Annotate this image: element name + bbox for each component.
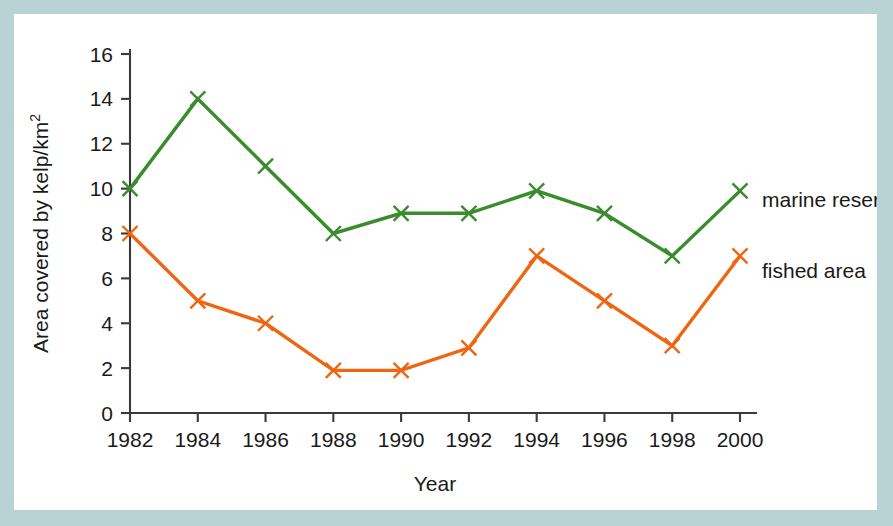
x-tick-label: 1988 (310, 428, 357, 451)
data-point-marker (258, 159, 273, 174)
series-label-fished-area: fished area (762, 259, 866, 282)
data-point-marker (665, 248, 680, 263)
x-axis-tick-labels: 1982198419861988199019921994199619982000 (107, 428, 764, 451)
x-tick-label: 1990 (378, 428, 425, 451)
y-axis-title: Area covered by kelp/km2 (27, 114, 52, 353)
x-tick-label: 1994 (513, 428, 560, 451)
series-label-marine-reserve: marine reserve (762, 188, 877, 211)
y-axis-tick-labels: 0246810121416 (90, 43, 114, 425)
y-tick-label: 6 (101, 267, 113, 290)
y-tick-label: 2 (101, 357, 113, 380)
axis-tick-marks (121, 54, 740, 422)
y-axis-title-text: Area covered by kelp/km (29, 122, 52, 353)
x-tick-label: 1984 (174, 428, 221, 451)
series-layer (123, 91, 748, 377)
data-point-marker (665, 338, 680, 353)
series-line-marine-reserve (130, 99, 740, 256)
series-line-fished-area (130, 234, 740, 371)
data-point-marker (597, 293, 612, 308)
y-tick-label: 0 (101, 402, 113, 425)
y-tick-label: 14 (90, 87, 114, 110)
figure-frame: 0246810121416 19821984198619881990199219… (0, 0, 893, 526)
x-tick-label: 2000 (717, 428, 764, 451)
line-chart: 0246810121416 19821984198619881990199219… (14, 14, 877, 510)
y-tick-label: 4 (101, 312, 113, 335)
data-point-marker (733, 248, 748, 263)
x-tick-label: 1992 (446, 428, 493, 451)
figure-plate: 0246810121416 19821984198619881990199219… (14, 14, 877, 510)
y-axis-title-superscript: 2 (27, 114, 43, 122)
y-tick-label: 10 (90, 177, 113, 200)
y-tick-label: 8 (101, 222, 113, 245)
series-inline-labels: marine reservefished area (762, 188, 877, 282)
x-tick-label: 1998 (649, 428, 696, 451)
y-tick-label: 12 (90, 132, 113, 155)
x-tick-label: 1982 (107, 428, 154, 451)
y-tick-label: 16 (90, 43, 113, 66)
x-tick-label: 1986 (242, 428, 289, 451)
data-point-marker (190, 91, 205, 106)
data-point-marker (733, 183, 748, 198)
data-point-marker (529, 248, 544, 263)
x-tick-label: 1996 (581, 428, 628, 451)
x-axis-title: Year (414, 472, 456, 495)
